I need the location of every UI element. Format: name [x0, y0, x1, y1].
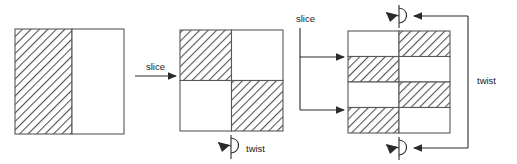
stage-3-cell-r1c1	[399, 57, 450, 83]
stage-3-cell-r0c0	[348, 31, 399, 57]
stage-1-cell-white	[72, 29, 124, 134]
slice-2-arrows	[300, 28, 344, 110]
stage-3-cell-r2c0	[348, 82, 399, 108]
stage-1-cell-hatched	[15, 29, 72, 134]
stage-3-cell-r3c1	[399, 108, 450, 134]
stage-3-cell-r0c1	[399, 31, 450, 57]
diagram-svg: slice twist slice	[0, 0, 517, 164]
stage-3-eighths	[348, 31, 450, 133]
twist-icon-bottom-right	[386, 137, 407, 160]
diagram-canvas: slice twist slice	[0, 0, 517, 164]
stage-3-cell-r3c0	[348, 108, 399, 134]
stage-2-cell-r0c0	[180, 30, 232, 81]
stage-2-cell-r0c1	[232, 30, 284, 81]
slice-2-label: slice	[296, 13, 315, 24]
slice-1-label: slice	[146, 61, 165, 72]
stage-3-cell-r2c1	[399, 82, 450, 108]
twist-icon-bottom-center	[218, 135, 239, 159]
stage-2-quarters	[180, 30, 283, 131]
stage-1-halves	[15, 29, 124, 134]
twist-icon-top-right	[386, 5, 407, 28]
stage-3-cell-r1c0	[348, 57, 399, 83]
twist-2-label: twist	[477, 75, 496, 86]
twist-1-label: twist	[246, 143, 265, 154]
stage-2-cell-r1c0	[180, 81, 232, 132]
stage-2-cell-r1c1	[232, 81, 284, 132]
